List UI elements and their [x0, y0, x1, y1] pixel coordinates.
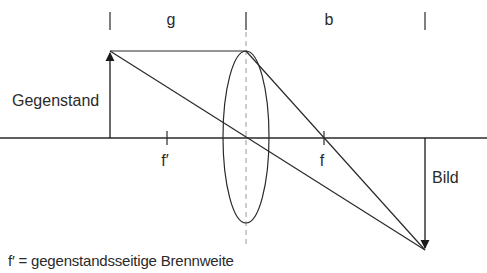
- focal-label-object-side: f′: [161, 152, 168, 169]
- image-label: Bild: [432, 169, 459, 186]
- central-ray: [110, 51, 425, 250]
- object-label: Gegenstand: [12, 92, 99, 109]
- object-distance-label: g: [167, 11, 176, 28]
- image-distance-label: b: [325, 11, 334, 28]
- caption-focal-length-definition: f′ = gegenstandsseitige Brennweite: [8, 252, 234, 269]
- lens-ray-diagram: g b f′ f Gegenstand Bild: [0, 0, 487, 273]
- focal-label-image-side: f: [320, 152, 325, 169]
- refracted-focal-ray: [246, 51, 425, 250]
